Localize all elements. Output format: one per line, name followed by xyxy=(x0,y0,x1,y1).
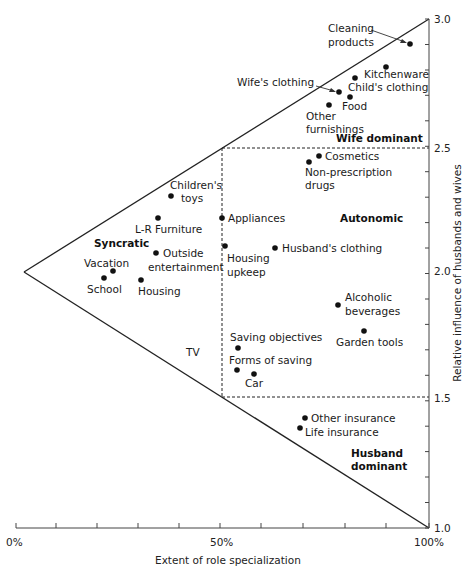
point-childs-clothing xyxy=(352,75,358,81)
label-other-furnishings-1: Other xyxy=(306,110,336,122)
label-childrens-toys-1: Children's xyxy=(170,179,222,191)
point-saving-objectives xyxy=(235,345,241,351)
x-axis-title: Extent of role specialization xyxy=(155,554,301,566)
y-tick-1-0: 1.0 xyxy=(434,522,451,534)
label-housing: Housing xyxy=(138,285,181,297)
label-vacation: Vacation xyxy=(84,257,129,269)
label-car: Car xyxy=(245,377,264,389)
label-non-prescription-1: Non-prescription xyxy=(305,166,392,178)
y-tick-2-0: 2.0 xyxy=(434,265,451,277)
point-other-furnishings xyxy=(326,102,332,108)
point-garden-tools xyxy=(361,328,367,334)
label-food: Food xyxy=(342,100,367,112)
label-saving-objectives: Saving objectives xyxy=(230,331,322,343)
y-tick-1-5: 1.5 xyxy=(434,392,451,404)
label-cleaning-products-1: Cleaning xyxy=(328,22,374,34)
x-tick-100: 100% xyxy=(414,536,444,548)
label-husbands-clothing: Husband's clothing xyxy=(282,242,382,254)
point-life-insurance xyxy=(297,425,303,431)
point-housing-upkeep xyxy=(222,243,228,249)
point-school xyxy=(101,275,107,281)
role-specialization-chart: 3.0 2.5 2.0 1.5 1.0 Relative influence o… xyxy=(0,0,476,576)
point-husbands-clothing xyxy=(272,245,278,251)
point-other-insurance xyxy=(302,415,308,421)
label-garden-tools: Garden tools xyxy=(336,336,403,348)
label-wifes-clothing: Wife's clothing xyxy=(237,76,314,88)
point-food xyxy=(347,94,353,100)
label-childrens-toys-2: toys xyxy=(181,192,203,204)
label-lr-furniture: L-R Furniture xyxy=(135,223,202,235)
point-appliances xyxy=(219,215,225,221)
point-childrens-toys xyxy=(168,193,174,199)
label-cosmetics: Cosmetics xyxy=(325,150,379,162)
point-car xyxy=(251,371,257,377)
label-outside-entertainment-2: entertainment xyxy=(148,261,224,273)
region-husband-dominant-line1: Husband xyxy=(351,447,403,459)
x-tick-50: 50% xyxy=(210,536,233,548)
label-outside-entertainment-1: Outside xyxy=(163,247,204,259)
point-labels: Cleaning products Kitchenware Child's cl… xyxy=(84,22,429,438)
point-vacation xyxy=(110,268,116,274)
y-tick-2-5: 2.5 xyxy=(434,142,451,154)
label-childs-clothing: Child's clothing xyxy=(348,81,428,93)
point-cleaning-products xyxy=(407,41,413,47)
label-housing-upkeep-1: Housing xyxy=(227,252,270,264)
region-syncratic: Syncratic xyxy=(94,237,149,249)
label-alcoholic-beverages-1: Alcoholic xyxy=(345,291,392,303)
x-axis: 0% 50% 100% Extent of role specializatio… xyxy=(6,523,444,566)
label-kitchenware: Kitchenware xyxy=(364,68,429,80)
label-alcoholic-beverages-2: beverages xyxy=(345,305,400,317)
y-axis-title: Relative influence of husbands and wives xyxy=(451,164,463,381)
label-appliances: Appliances xyxy=(228,212,285,224)
region-husband-dominant-line2: dominant xyxy=(351,460,407,472)
x-tick-0: 0% xyxy=(6,536,23,548)
label-other-furnishings-2: furnishings xyxy=(306,123,364,135)
region-autonomic: Autonomic xyxy=(340,212,403,224)
label-life-insurance: Life insurance xyxy=(305,426,379,438)
point-forms-of-saving xyxy=(234,367,240,373)
point-non-prescription-drugs xyxy=(306,159,312,165)
point-alcoholic-beverages xyxy=(335,302,341,308)
point-lr-furniture xyxy=(155,215,161,221)
point-outside-entertainment xyxy=(153,250,159,256)
point-cosmetics xyxy=(316,153,322,159)
label-housing-upkeep-2: upkeep xyxy=(227,266,266,278)
label-forms-of-saving: Forms of saving xyxy=(229,354,312,366)
y-axis: 3.0 2.5 2.0 1.5 1.0 Relative influence o… xyxy=(425,13,463,534)
label-non-prescription-2: drugs xyxy=(305,179,335,191)
label-cleaning-products-2: products xyxy=(328,36,374,48)
point-housing xyxy=(138,277,144,283)
label-tv: TV xyxy=(185,346,200,358)
label-other-insurance: Other insurance xyxy=(311,412,396,424)
point-wifes-clothing xyxy=(336,89,342,95)
y-tick-3-0: 3.0 xyxy=(434,13,451,25)
label-school: School xyxy=(87,283,122,295)
